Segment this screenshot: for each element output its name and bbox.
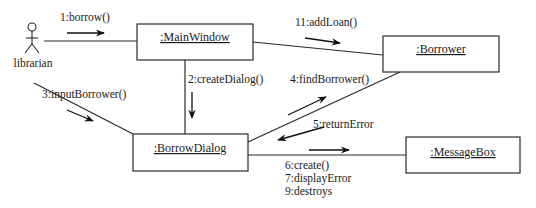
arrow-right-icon (305, 38, 340, 43)
message-label: 1:borrow() (60, 11, 110, 24)
stick-figure-icon (25, 23, 39, 53)
message-label: 11:addLoan() (295, 16, 357, 29)
actor-librarian[interactable]: librarian (14, 23, 53, 69)
message-label: 7:displayError (285, 172, 352, 185)
message-label: 2:createDialog() (188, 73, 264, 86)
actor-label: librarian (14, 57, 53, 69)
object-borrowdialog[interactable]: :BorrowDialog (133, 134, 248, 171)
message-label: 3:inputBorrower() (42, 88, 126, 101)
object-borrower[interactable]: :Borrower (383, 36, 499, 72)
object-messagebox[interactable]: :MessageBox (406, 137, 520, 173)
message-label: 4:findBorrower() (290, 73, 369, 86)
object-label: :MainWindow (160, 30, 230, 44)
object-mainwindow[interactable]: :MainWindow (137, 24, 253, 60)
arrow-up-right-icon (288, 97, 326, 115)
collaboration-diagram: librarian 1:borrow() 11:addLoan() 2:crea… (0, 0, 536, 208)
message-label: 5:returnError (313, 118, 374, 130)
object-label: :Borrower (416, 42, 465, 56)
link-mainwindow-borrower (253, 42, 383, 55)
object-label: :MessageBox (430, 145, 495, 159)
message-label: 9:destroys (285, 185, 333, 198)
object-label: :BorrowDialog (154, 141, 227, 155)
message-label: 6:create() (285, 159, 329, 172)
